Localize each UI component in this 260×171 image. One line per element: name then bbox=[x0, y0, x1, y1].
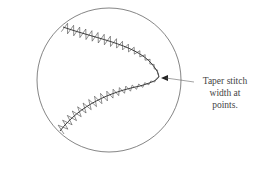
detail-circle bbox=[37, 8, 181, 152]
seam-center-line bbox=[60, 27, 159, 131]
callout-line-1: Taper stitch bbox=[190, 75, 260, 87]
callout-label: Taper stitch width at points. bbox=[190, 75, 260, 111]
callout-line-3: points. bbox=[190, 99, 260, 111]
callout-line-2: width at bbox=[190, 87, 260, 99]
zigzag-stitch-line bbox=[58, 23, 159, 134]
zigzag-stitches bbox=[58, 23, 159, 134]
